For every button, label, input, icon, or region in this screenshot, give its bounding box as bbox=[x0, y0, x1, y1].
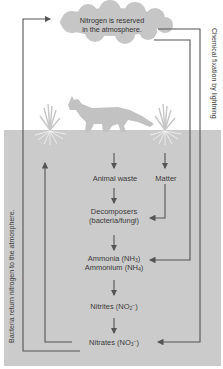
arrow-bacteria-return bbox=[23, 19, 80, 351]
nitrogen-cycle-diagram bbox=[0, 0, 223, 369]
atmosphere-line-1: Nitrogen is reserved bbox=[64, 16, 160, 25]
plant-right-roots-icon bbox=[150, 131, 181, 145]
ammonium-label: Ammonium (NH4) bbox=[70, 263, 158, 272]
decomposers-line-1: Decomposers bbox=[74, 207, 154, 216]
label-bacteria-return: Bacteria return nitrogen to the atmosphe… bbox=[8, 210, 15, 343]
arrow-lightning-fixation bbox=[158, 29, 200, 342]
plant-left-roots-icon bbox=[35, 131, 66, 145]
node-ammonia: Ammonia (NH3) Ammonium (NH4) bbox=[70, 254, 158, 272]
atmosphere-label: Nitrogen is reserved in the atmosphere. bbox=[64, 16, 160, 34]
node-nitrates: Nitrates (NO3−) bbox=[74, 338, 154, 347]
plant-right-icon bbox=[155, 104, 175, 130]
arrow-atmosphere-to-ammonia bbox=[150, 40, 190, 260]
node-animal-waste: Animal waste bbox=[82, 174, 148, 183]
label-chemical-fixation: Chemical fixation by lightning bbox=[211, 28, 218, 119]
atmosphere-line-2: in the atmosphere. bbox=[64, 25, 160, 34]
node-decomposers: Decomposers (bacteria/fungi) bbox=[74, 207, 154, 225]
decomposers-line-2: (bacteria/fungi) bbox=[74, 216, 154, 225]
node-nitrites: Nitrites (NO2−) bbox=[74, 302, 154, 311]
node-matter: Matter bbox=[150, 174, 182, 183]
fox-silhouette-icon bbox=[68, 96, 154, 132]
plant-left-icon bbox=[40, 104, 60, 130]
arrow-nitrates-to-plants bbox=[45, 163, 72, 342]
ammonia-label: Ammonia (NH3) bbox=[70, 254, 158, 263]
